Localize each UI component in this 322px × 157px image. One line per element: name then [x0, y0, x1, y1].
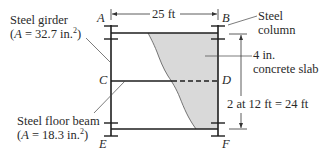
point-label-b: B [222, 12, 230, 25]
structural-frame-figure: A B C D E F 25 ft 2 at 12 ft = 24 ft Ste… [0, 0, 322, 157]
steel-floor-beam-name: Steel floor beam [17, 114, 100, 128]
column-leader [228, 16, 257, 25]
span-dimension-label: 25 ft [152, 7, 175, 21]
point-label-c: C [99, 74, 107, 87]
concrete-slab-label: 4 in. concrete slab [253, 48, 319, 76]
steel-girder-area: (A = 32.7 in.2) [10, 27, 81, 41]
steel-column-label: Steel column [258, 9, 296, 37]
height-dimension-label: 2 at 12 ft = 24 ft [227, 97, 308, 111]
steel-floor-beam-label: Steel floor beam (A = 18.3 in.2) [17, 114, 100, 142]
steel-girder-name: Steel girder [10, 13, 81, 27]
point-label-a: A [97, 12, 105, 25]
point-label-e: E [99, 138, 107, 151]
steel-floor-beam-area: (A = 18.3 in.2) [17, 128, 100, 142]
point-label-d: D [222, 74, 231, 87]
steel-girder-label: Steel girder (A = 32.7 in.2) [10, 13, 81, 41]
girder-leader [86, 38, 110, 62]
point-label-f: F [222, 138, 230, 151]
